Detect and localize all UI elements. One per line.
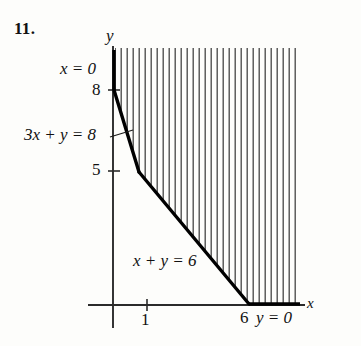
- problem-number: 11.: [14, 20, 35, 37]
- x-tick-label-1: 1: [141, 311, 150, 328]
- constraint-label-3x-plus-y-equals-8: 3x + y = 8: [24, 126, 96, 143]
- x-axis-label: x: [307, 296, 314, 311]
- y-axis-label: y: [106, 27, 114, 44]
- constraint-label-x-equals-0: x = 0: [60, 60, 96, 77]
- y-tick-label-8: 8: [92, 81, 101, 98]
- y-tick-label-5: 5: [92, 161, 101, 178]
- x-tick-label-6: 6: [240, 309, 249, 326]
- constraint-label-y-equals-0: y = 0: [256, 309, 292, 326]
- constraint-label-x-plus-y-equals-6: x + y = 6: [133, 252, 197, 269]
